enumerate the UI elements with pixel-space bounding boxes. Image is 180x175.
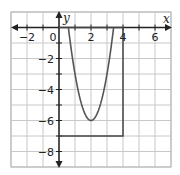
x-tick-label: 0 — [50, 31, 57, 44]
y-tick-label: −4 — [38, 84, 54, 97]
x-tick-label: −2 — [19, 31, 35, 44]
x-axis-label: x — [163, 12, 170, 26]
y-tick-label: −8 — [38, 146, 54, 159]
x-tick-label: 4 — [120, 31, 127, 44]
x-axis-left-arrow-icon — [11, 24, 18, 31]
y-tick-label: −2 — [38, 53, 54, 66]
y-axis-label: y — [62, 11, 70, 25]
coordinate-plane: −20246−2−4−6−8xy — [0, 0, 180, 175]
x-tick-label: 6 — [152, 31, 159, 44]
y-tick-label: −6 — [38, 115, 54, 128]
x-tick-label: 2 — [88, 31, 95, 44]
